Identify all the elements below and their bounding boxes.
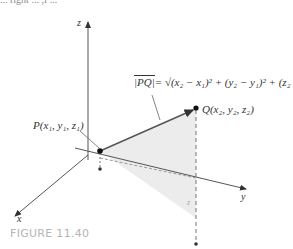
figure-caption: FIGURE 11.40	[10, 227, 89, 240]
formula-lhs: |PQ|	[134, 75, 155, 88]
z-axis-label: z	[77, 17, 81, 28]
point-q	[193, 105, 198, 110]
formula-rhs: = √(x₂ − x₁)² + (y₂ − y₁)² + (z₂ − z₁)²	[155, 76, 293, 88]
x-axis-label: x	[17, 213, 21, 224]
shaded-triangle	[100, 108, 196, 218]
x-axis	[15, 155, 88, 216]
point-p-label: P(x₁, y₁, z₁)	[33, 119, 84, 131]
point-q-label: Q(x₂, y₂, z₂)	[202, 103, 254, 115]
distance-formula: |PQ|= √(x₂ − x₁)² + (y₂ − y₁)² + (z₂ − z…	[134, 76, 293, 88]
point-p	[97, 148, 103, 154]
y-axis-label: y	[241, 191, 245, 202]
